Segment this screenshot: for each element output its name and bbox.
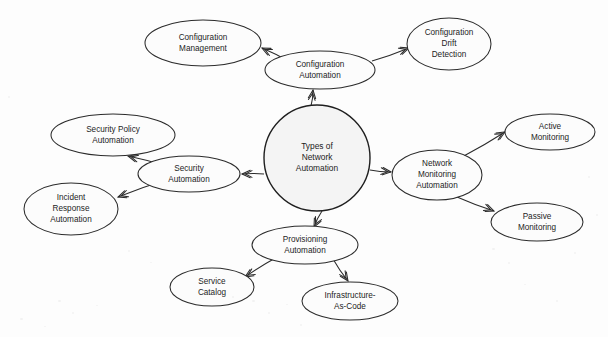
incident-response-automation-label-line: Response xyxy=(53,204,90,213)
infrastructure-as-code-label-line: As-Code xyxy=(334,302,366,311)
configuration-management-label-line: Management xyxy=(179,44,228,53)
edge-hub-configuration-automation xyxy=(308,90,315,106)
edge-provisioning-automation-infrastructure-as-code xyxy=(333,259,348,281)
diagram-canvas: Types ofNetworkAutomationConfigurationMa… xyxy=(0,0,608,337)
network-automation-diagram: Types ofNetworkAutomationConfigurationMa… xyxy=(0,0,608,337)
node-hub[interactable]: Types ofNetworkAutomation xyxy=(264,105,370,211)
hub-label-line: Types of xyxy=(301,141,333,151)
edge-configuration-automation-configuration-drift-detection xyxy=(372,47,409,61)
passive-monitoring-label-line: Monitoring xyxy=(518,223,557,232)
configuration-drift-detection-label-line: Drift xyxy=(441,39,457,48)
hub-label-line: Network xyxy=(302,152,334,162)
configuration-automation-label-line: Automation xyxy=(299,71,341,80)
edge-hub-security-automation xyxy=(242,170,264,177)
edge-hub-network-monitoring-automation xyxy=(370,168,391,175)
node-passive-monitoring[interactable]: PassiveMonitoring xyxy=(491,203,583,241)
node-incident-response-automation[interactable]: IncidentResponseAutomation xyxy=(24,183,118,235)
service-catalog-label-line: Service xyxy=(198,277,226,286)
configuration-management-label-line: Configuration xyxy=(179,33,228,42)
security-automation-label-line: Security xyxy=(174,164,204,173)
security-policy-automation-label-line: Security Policy xyxy=(86,125,141,134)
incident-response-automation-label-line: Automation xyxy=(50,215,92,224)
active-monitoring-label-line: Monitoring xyxy=(531,133,570,142)
edge-network-monitoring-automation-active-monitoring xyxy=(462,132,505,157)
provisioning-automation-label-line: Provisioning xyxy=(283,235,328,244)
node-security-policy-automation[interactable]: Security PolicyAutomation xyxy=(51,114,175,156)
node-service-catalog[interactable]: ServiceCatalog xyxy=(170,268,254,306)
configuration-drift-detection-label-line: Detection xyxy=(432,50,467,59)
hub-label-line: Automation xyxy=(296,163,339,173)
configuration-automation-label-line: Configuration xyxy=(296,60,345,69)
edge-network-monitoring-automation-passive-monitoring xyxy=(457,197,494,212)
node-configuration-drift-detection[interactable]: ConfigurationDriftDetection xyxy=(407,18,491,70)
security-policy-automation-label-line: Automation xyxy=(92,136,134,145)
security-automation-label-line: Automation xyxy=(168,175,210,184)
node-active-monitoring[interactable]: ActiveMonitoring xyxy=(505,114,595,150)
node-provisioning-automation[interactable]: ProvisioningAutomation xyxy=(252,226,358,264)
infrastructure-as-code-label-line: Infrastructure- xyxy=(325,291,376,300)
configuration-drift-detection-label-line: Configuration xyxy=(425,28,474,37)
node-configuration-management[interactable]: ConfigurationManagement xyxy=(145,20,261,66)
node-infrastructure-as-code[interactable]: Infrastructure-As-Code xyxy=(302,282,398,320)
nodes-layer: Types ofNetworkAutomationConfigurationMa… xyxy=(24,18,595,320)
node-configuration-automation[interactable]: ConfigurationAutomation xyxy=(265,51,375,89)
provisioning-automation-label-line: Automation xyxy=(284,246,326,255)
service-catalog-label-line: Catalog xyxy=(198,288,227,297)
network-monitoring-automation-label-line: Monitoring xyxy=(418,170,457,179)
edge-hub-provisioning-automation xyxy=(314,211,322,227)
network-monitoring-automation-label-line: Network xyxy=(422,159,453,168)
incident-response-automation-label-line: Incident xyxy=(57,193,86,202)
network-monitoring-automation-label-line: Automation xyxy=(416,181,458,190)
node-security-automation[interactable]: SecurityAutomation xyxy=(138,156,240,192)
node-network-monitoring-automation[interactable]: NetworkMonitoringAutomation xyxy=(392,150,482,200)
active-monitoring-label-line: Active xyxy=(539,122,562,131)
passive-monitoring-label-line: Passive xyxy=(523,212,552,221)
